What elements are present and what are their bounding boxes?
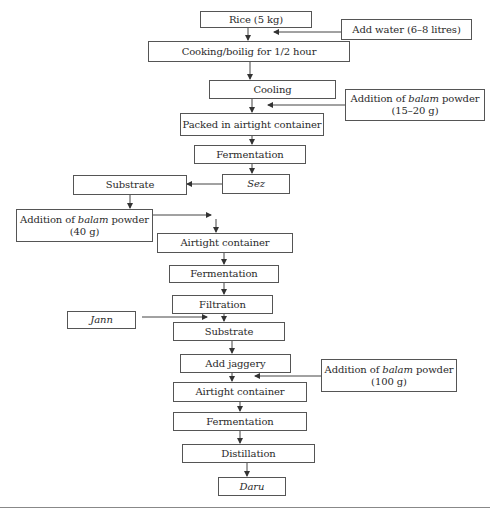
input-jann-label: Jann [90, 314, 112, 326]
step-airtight-2-label: Airtight container [195, 386, 284, 398]
input-balam-15-20g-line1: Addition of balam powder [351, 93, 480, 105]
input-balam-40g: Addition of balam powder (40 g) [16, 209, 153, 242]
bottom-rule-divider [0, 507, 490, 508]
step-airtight-1-label: Airtight container [180, 237, 269, 249]
step-daru: Daru [218, 477, 286, 496]
step-fermentation-1: Fermentation [194, 145, 306, 164]
step-cooling: Cooling [209, 80, 336, 99]
step-sez: Sez [222, 174, 290, 194]
step-fermentation-3-label: Fermentation [206, 416, 273, 428]
step-add-jaggery-label: Add jaggery [205, 358, 265, 370]
step-add-jaggery: Add jaggery [180, 354, 291, 373]
input-jann: Jann [67, 311, 136, 329]
step-daru-label: Daru [240, 481, 265, 493]
step-airtight-1: Airtight container [157, 233, 293, 253]
step-substrate-2: Substrate [173, 322, 285, 341]
input-balam-100g: Addition of balam powder (100 g) [321, 359, 457, 392]
step-rice: Rice (5 kg) [200, 11, 312, 28]
input-balam-100g-line1: Addition of balam powder [325, 364, 454, 376]
step-rice-label: Rice (5 kg) [229, 14, 283, 26]
step-substrate-2-label: Substrate [205, 326, 254, 338]
step-fermentation-1-label: Fermentation [216, 149, 283, 161]
step-sez-label: Sez [247, 178, 265, 190]
step-filtration-label: Filtration [199, 299, 246, 311]
input-balam-40g-line2: (40 g) [70, 226, 100, 238]
step-substrate-1: Substrate [73, 175, 187, 195]
connector-arrows [0, 0, 498, 512]
step-cooling-label: Cooling [253, 84, 291, 96]
input-add-water: Add water (6–8 litres) [341, 19, 472, 40]
step-distillation-label: Distillation [221, 448, 275, 460]
input-balam-40g-line1: Addition of balam powder [20, 214, 149, 226]
step-packed: Packed in airtight container [180, 113, 324, 136]
step-cooking: Cooking/boilig for 1/2 hour [148, 41, 350, 62]
input-balam-100g-line2: (100 g) [371, 376, 407, 388]
step-cooking-label: Cooking/boilig for 1/2 hour [182, 46, 317, 58]
input-balam-15-20g: Addition of balam powder (15–20 g) [345, 89, 485, 121]
step-fermentation-2-label: Fermentation [190, 268, 257, 280]
step-airtight-2: Airtight container [173, 382, 307, 402]
input-add-water-label: Add water (6–8 litres) [352, 24, 460, 36]
step-distillation: Distillation [182, 444, 315, 463]
input-balam-15-20g-line2: (15–20 g) [392, 105, 439, 117]
step-packed-label: Packed in airtight container [183, 119, 322, 131]
step-fermentation-2: Fermentation [169, 265, 279, 283]
step-fermentation-3: Fermentation [173, 412, 307, 431]
step-filtration: Filtration [172, 295, 273, 314]
step-substrate-1-label: Substrate [106, 179, 155, 191]
